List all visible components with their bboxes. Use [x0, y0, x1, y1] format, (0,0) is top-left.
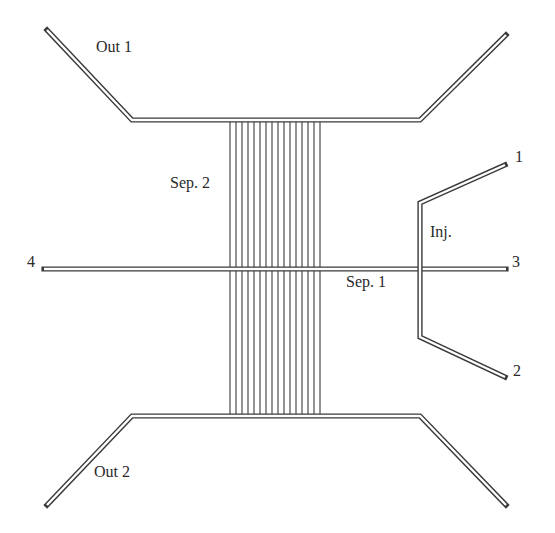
label-port-4: 4: [27, 254, 35, 270]
label-port-3: 3: [512, 254, 520, 270]
channel-out2: [47, 416, 506, 505]
label-sep2: Sep. 2: [170, 175, 210, 191]
label-port-2: 2: [513, 363, 521, 379]
microfluidic-chip-diagram: Out 1 Out 2 Sep. 2 Sep. 1 Inj. 1 2 3 4: [0, 0, 555, 533]
diagram-canvas: [0, 0, 555, 533]
label-inj: Inj.: [430, 224, 452, 240]
label-out2: Out 2: [94, 464, 130, 480]
channel-network: [44, 30, 506, 505]
label-sep1: Sep. 1: [346, 274, 386, 290]
label-port-1: 1: [515, 149, 523, 165]
label-out1: Out 1: [96, 39, 132, 55]
